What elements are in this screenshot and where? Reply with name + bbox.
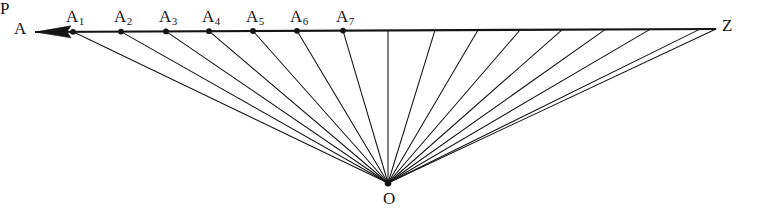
label-a3-subscript: 3 xyxy=(171,15,177,27)
label-a6-subscript: 6 xyxy=(302,15,308,27)
ray-r2-to-vertex xyxy=(388,30,478,183)
label-a4-base: A xyxy=(202,7,214,26)
label-a6-base: A xyxy=(290,7,302,26)
label-a2-base: A xyxy=(114,7,126,26)
label-point-a7: A7 xyxy=(336,8,354,27)
label-a5-subscript: 5 xyxy=(258,15,264,27)
label-a2-subscript: 2 xyxy=(126,15,132,27)
point-dot-a4 xyxy=(206,28,212,34)
label-point-p: P xyxy=(0,0,9,17)
ray-r7-to-vertex xyxy=(388,29,700,183)
ray-z-to-vertex xyxy=(388,29,716,183)
point-dot-a5 xyxy=(250,28,256,34)
label-a7-subscript: 7 xyxy=(348,15,354,27)
ray-a7-to-vertex xyxy=(343,31,388,183)
ray-a5-to-vertex xyxy=(253,31,388,183)
baseline-arrowhead xyxy=(35,26,71,38)
label-a3-base: A xyxy=(159,7,171,26)
label-point-a4: A4 xyxy=(202,8,220,27)
label-point-a1: A1 xyxy=(66,8,84,27)
label-point-a2: A2 xyxy=(114,8,132,27)
label-a1-subscript: 1 xyxy=(78,15,84,27)
label-a1-base: A xyxy=(66,7,78,26)
rays-group xyxy=(73,29,716,183)
vertex-dot-o xyxy=(385,180,392,187)
ray-r4-to-vertex xyxy=(388,30,562,183)
ray-r6-to-vertex xyxy=(388,29,650,183)
baseline-segment xyxy=(35,29,716,32)
ray-diagram-svg xyxy=(0,0,766,215)
ray-a3-to-vertex xyxy=(166,31,388,183)
label-a7-base: A xyxy=(336,7,348,26)
baseline-group xyxy=(35,26,716,38)
ray-r5-to-vertex xyxy=(388,30,605,183)
diagram-canvas: A Z O A1 A2 A3 A4 A5 A6 A7 P xyxy=(0,0,766,215)
ray-a4-to-vertex xyxy=(209,31,388,183)
label-point-a5: A5 xyxy=(246,8,264,27)
label-vertex-o: O xyxy=(383,190,395,207)
label-point-z: Z xyxy=(722,17,732,34)
ray-r3-to-vertex xyxy=(388,30,520,183)
label-point-a6: A6 xyxy=(290,8,308,27)
point-dot-a1 xyxy=(70,29,76,35)
point-dot-a6 xyxy=(294,28,300,34)
label-a4-subscript: 4 xyxy=(214,15,220,27)
vertex-dot xyxy=(385,180,392,187)
label-point-a: A xyxy=(14,20,26,37)
label-a5-base: A xyxy=(246,7,258,26)
ray-a2-to-vertex xyxy=(121,32,388,183)
point-dot-a7 xyxy=(340,28,346,34)
point-dot-a3 xyxy=(163,29,169,35)
ray-a1-to-vertex xyxy=(73,32,388,183)
point-dot-a2 xyxy=(118,29,124,35)
label-point-a3: A3 xyxy=(159,8,177,27)
ray-a6-to-vertex xyxy=(297,31,388,183)
